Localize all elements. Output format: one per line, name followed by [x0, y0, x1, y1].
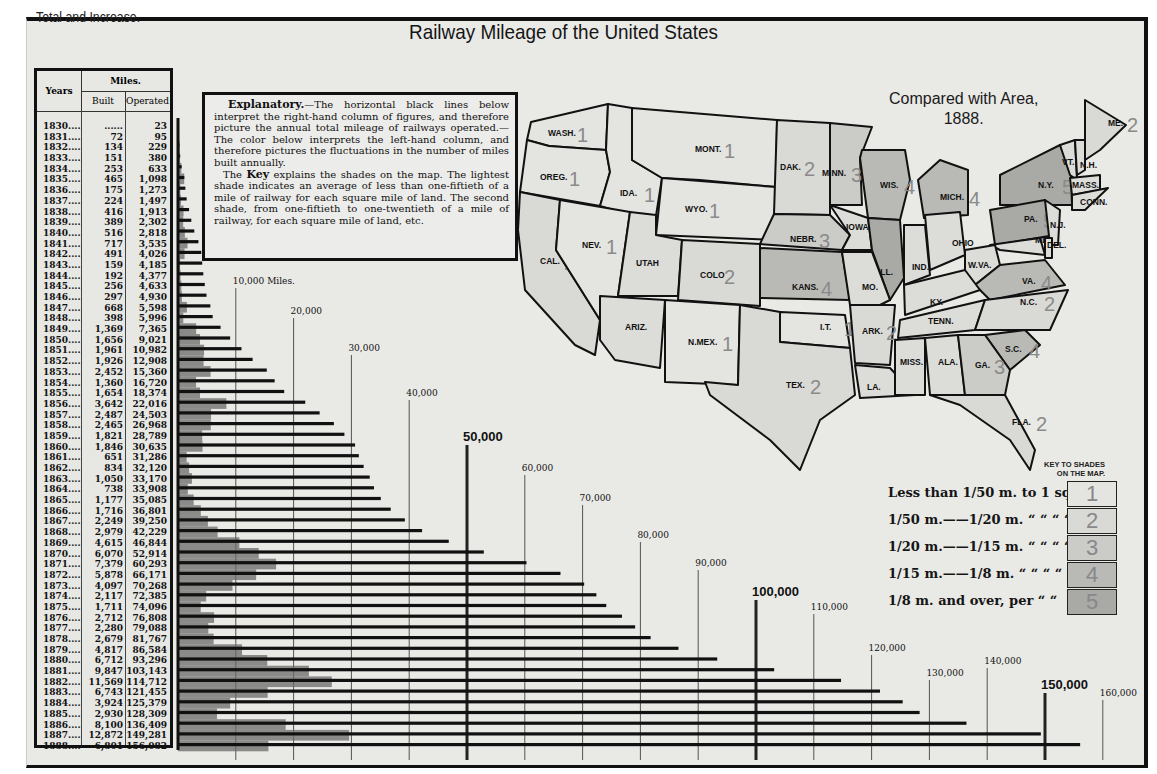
state-label: N.Y. — [1038, 180, 1054, 190]
state-label: GA. — [975, 360, 990, 370]
state-label: CAL. — [540, 256, 560, 266]
state-label: WASH. — [548, 128, 576, 138]
state-me — [1085, 100, 1126, 160]
state-label: MICH. — [940, 192, 964, 202]
state-shade-number: 2 — [810, 376, 821, 398]
map-subtitle: Compared with Area, 1888. — [889, 89, 1038, 129]
state-label: W.VA. — [968, 260, 991, 270]
key-title: KEY TO SHADES ON THE MAP. — [1044, 460, 1105, 478]
state-shade-number: 1 — [722, 333, 733, 355]
state-label: WIS. — [880, 180, 898, 190]
state-label: ARK. — [862, 326, 883, 336]
state-label: COLO — [700, 270, 725, 280]
state-shade-number: 4 — [1041, 272, 1052, 294]
state-label: MASS. — [1072, 180, 1099, 190]
state-label: IDA. — [620, 188, 637, 198]
state-label: WYO. — [685, 204, 708, 214]
state-label: N.C. — [1020, 297, 1037, 307]
state-label: ME. — [1108, 118, 1123, 128]
key-row-label: Less than 1/50 m. to 1 sq. m. — [888, 485, 1063, 500]
key-row-label: 1/50 m.——1/20 m. “ “ “ “ — [888, 512, 1063, 527]
state-label: VA. — [1022, 276, 1036, 286]
state-label: MINN. — [822, 168, 846, 178]
state-shade-number: 1 — [606, 236, 617, 258]
key-row-label: 1/20 m.——1/15 m. “ “ “ “ — [888, 539, 1063, 554]
state-label: OHIO — [952, 238, 974, 248]
key-shade-box: 5 — [1067, 589, 1117, 615]
state-label: NEBR. — [790, 234, 816, 244]
state-shade-number: 4 — [821, 278, 832, 300]
state-label: KANS. — [792, 282, 818, 292]
state-shade-number: 2 — [804, 158, 815, 180]
state-shade-number: 3 — [994, 356, 1005, 378]
state-label: ARIZ. — [625, 322, 647, 332]
state-shade-number: 1 — [724, 140, 735, 162]
key-shade-box: 4 — [1067, 562, 1117, 588]
state-label: N.J. — [1050, 220, 1066, 230]
state-label: CONN. — [1080, 197, 1107, 207]
state-shade-number: 2 — [1044, 293, 1055, 315]
state-nebr — [760, 214, 850, 250]
state-label: DEL. — [1047, 240, 1066, 250]
state-label: NEV. — [582, 240, 601, 250]
state-mich — [918, 160, 968, 218]
key-row-label: 1/15 m.——1/8 m. “ “ “ “ — [888, 566, 1063, 581]
state-shade-number: 1 — [644, 184, 655, 206]
state-label: N.MEX. — [688, 337, 717, 347]
state-label: OREG. — [540, 172, 567, 182]
state-label: N.H. — [1080, 160, 1097, 170]
state-label: MISS. — [900, 357, 923, 367]
state-label: TENN. — [928, 316, 954, 326]
state-shade-number: 1 — [577, 124, 588, 146]
key-row-label: 1/8 m. and over, per “ “ — [888, 593, 1063, 608]
state-shade-number: 2 — [1036, 413, 1047, 435]
state-shade-number: 2 — [724, 266, 735, 288]
state-label: MO. — [862, 282, 878, 292]
state-label: I.T. — [820, 322, 831, 332]
state-label: VT. — [1062, 157, 1074, 167]
state-label: TEX. — [786, 380, 805, 390]
state-shade-number: 1 — [569, 168, 580, 190]
state-label: MONT. — [695, 144, 721, 154]
state-fla — [930, 395, 1035, 470]
state-ariz — [600, 296, 665, 368]
state-label: UTAH — [636, 258, 659, 268]
state-label: IOWA — [846, 222, 869, 232]
state-shade-number: 2 — [1127, 114, 1138, 136]
state-label: PA. — [1024, 214, 1038, 224]
state-shade-number: 4 — [969, 188, 980, 210]
state-shade-number: 4 — [1029, 340, 1040, 362]
key-shade-box: 3 — [1067, 535, 1117, 561]
state-label: ALA. — [938, 357, 958, 367]
key-shade-box: 2 — [1067, 508, 1117, 534]
state-shade-number: 1 — [709, 200, 720, 222]
state-label: KY. — [930, 297, 943, 307]
state-shade-number: 4 — [904, 176, 915, 198]
state-label: FLA. — [1012, 417, 1031, 427]
state-kans — [760, 248, 850, 300]
key-shade-box: 1 — [1067, 481, 1117, 507]
page: Total and Increase. Railway Mileage of t… — [0, 0, 1157, 774]
state-label: DAK. — [780, 162, 801, 172]
state-label: LA. — [867, 382, 881, 392]
state-shade-number: 3 — [819, 230, 830, 252]
state-label: IND. — [912, 262, 929, 272]
state-label: S.C. — [1005, 344, 1022, 354]
